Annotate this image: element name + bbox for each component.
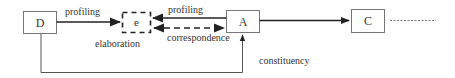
node-c-label: C: [364, 14, 372, 28]
node-c: C: [352, 10, 385, 33]
node-d: D: [24, 12, 57, 34]
node-e-label: e: [134, 16, 139, 28]
node-e: e: [123, 13, 151, 33]
diagram-canvas: D e A C profiling profiling corresponden…: [0, 0, 455, 78]
edge-correspondence-label: correspondence: [167, 32, 230, 43]
node-a: A: [227, 11, 260, 33]
edge-constituency-label: constituency: [259, 55, 310, 66]
edge-d-to-e-label: profiling: [65, 6, 100, 17]
edge-elaboration-label: elaboration: [95, 38, 140, 49]
node-d-label: D: [36, 16, 45, 30]
edge-a-to-e-label: profiling: [168, 4, 203, 15]
node-a-label: A: [239, 15, 248, 29]
